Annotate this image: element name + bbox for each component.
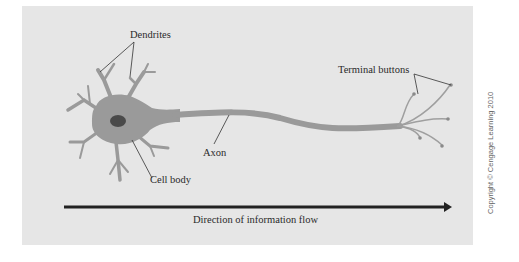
flow-arrow xyxy=(64,202,452,212)
flow-caption: Direction of information flow xyxy=(193,214,318,225)
label-dendrites: Dendrites xyxy=(130,29,171,40)
axon-leader xyxy=(214,115,229,144)
cell-body-shape xyxy=(92,94,180,144)
axon-shape xyxy=(175,112,400,128)
copyright-notice: Copyright © Cengage Learning 2010 xyxy=(486,92,495,214)
terminal-branches-shape xyxy=(398,85,450,145)
label-axon: Axon xyxy=(203,147,226,158)
dendrites-leader xyxy=(100,42,134,72)
nucleus-shape xyxy=(110,115,126,127)
label-terminal-buttons: Terminal buttons xyxy=(338,64,409,75)
terminal-leader xyxy=(414,74,418,94)
dendrites-leader-2 xyxy=(130,42,134,77)
label-cell-body: Cell body xyxy=(150,174,191,185)
terminal-leader-2 xyxy=(414,74,451,85)
